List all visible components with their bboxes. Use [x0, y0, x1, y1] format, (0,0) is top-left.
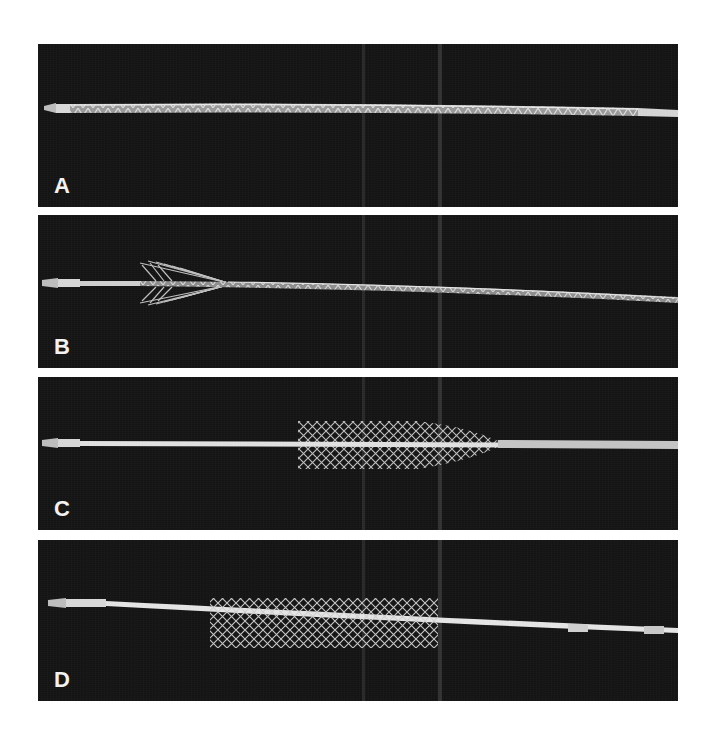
catheter-constrained-stent: [38, 44, 678, 207]
panel-label: B: [54, 336, 70, 358]
expanded-stent-mesh: [210, 598, 438, 648]
panel-label: A: [54, 175, 70, 197]
catheter-stent-deployed: [38, 540, 678, 701]
panel-label: C: [54, 498, 70, 520]
panel-c: C: [38, 377, 678, 530]
panel-b: B: [38, 215, 678, 368]
catheter-stent-flared: [38, 377, 678, 530]
catheter-partial-expansion: [38, 215, 678, 368]
panel-a: A: [38, 44, 678, 207]
panel-d: D: [38, 540, 678, 701]
panel-label: D: [54, 669, 70, 691]
stent-deployment-figure: A B: [0, 0, 715, 730]
